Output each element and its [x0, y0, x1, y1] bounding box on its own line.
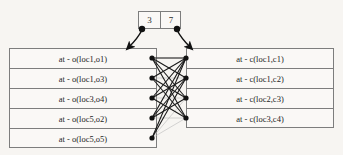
strong-edge — [152, 98, 186, 118]
index-cell-right: 7 — [160, 12, 182, 28]
right-arrow-icon — [177, 30, 190, 47]
left-arrow-icon — [129, 30, 142, 47]
table-row: at - c(loc1,c2) — [187, 69, 333, 89]
strong-edge — [152, 98, 186, 118]
strong-edge — [152, 78, 186, 118]
index-pair-box: 3 7 — [138, 11, 181, 29]
strong-edge — [152, 58, 186, 138]
row-label: at - o(loc1,o1) — [59, 54, 107, 64]
diagram-canvas: 3 7 at - o(loc1,o1) at - o(loc1,o3) at -… — [0, 0, 343, 155]
strong-edge — [152, 58, 186, 78]
strong-edge — [152, 78, 186, 118]
strong-edge — [152, 78, 186, 138]
table-row: at - c(loc3,c4) — [187, 109, 333, 129]
strong-edge — [152, 58, 186, 118]
index-cell-left: 3 — [139, 12, 161, 28]
row-label: at - o(loc5,o2) — [59, 114, 107, 124]
container-location-table: at - c(loc1,c1) at - c(loc1,c2) at - c(l… — [186, 48, 334, 128]
strong-edge — [152, 58, 186, 118]
strong-edge — [152, 78, 186, 98]
strong-edge-group — [152, 58, 186, 138]
faint-edge — [152, 58, 186, 98]
row-label: at - c(loc1,c2) — [236, 74, 283, 84]
table-row: at - o(loc1,o3) — [10, 69, 156, 89]
faint-edge — [152, 58, 186, 118]
row-label: at - c(loc2,c3) — [236, 94, 283, 104]
faint-edge — [152, 98, 186, 138]
table-row: at - o(loc5,o5) — [10, 129, 156, 149]
row-label: at - c(loc3,c4) — [236, 114, 283, 124]
faint-edge-group — [152, 58, 186, 138]
faint-edge — [152, 118, 186, 138]
row-label: at - c(loc1,c1) — [236, 54, 283, 64]
strong-edge — [152, 58, 186, 78]
row-label: at - o(loc5,o5) — [59, 134, 107, 144]
strong-edge — [152, 58, 186, 98]
strong-edge — [152, 78, 186, 98]
row-label: at - o(loc1,o3) — [59, 74, 107, 84]
table-row: at - o(loc3,o4) — [10, 89, 156, 109]
table-row: at - c(loc2,c3) — [187, 89, 333, 109]
strong-edge — [152, 58, 186, 98]
table-row: at - o(loc1,o1) — [10, 49, 156, 69]
table-row: at - c(loc1,c1) — [187, 49, 333, 69]
row-label: at - o(loc3,o4) — [59, 94, 107, 104]
table-row: at - o(loc5,o2) — [10, 109, 156, 129]
object-location-table: at - o(loc1,o1) at - o(loc1,o3) at - o(l… — [9, 48, 157, 148]
